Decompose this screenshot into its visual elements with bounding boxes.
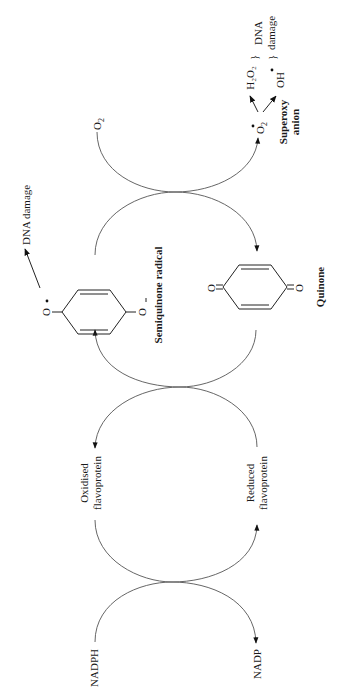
cycle-oxygen — [95, 132, 258, 255]
semiquinone-radical-label: Semiquinone radical — [152, 247, 164, 344]
dna-damage-label-right-line1: DNA — [252, 21, 264, 45]
arrow-oxidised-to-reduced — [95, 520, 257, 582]
o2-label: O2 — [91, 118, 106, 130]
arrow-to-dna-damage — [25, 249, 40, 288]
brace-2: } — [266, 55, 278, 60]
radical-dot-left — [46, 300, 49, 303]
arrow-reduced-to-oxidised — [95, 387, 257, 448]
superoxy-label-line2: anion — [289, 109, 301, 135]
arrow-nadph-to-nadp — [95, 582, 256, 643]
dna-damage-label-left: DNA damage — [20, 185, 32, 245]
brace-1: } — [248, 55, 260, 60]
superoxide-radical-dot — [252, 125, 255, 128]
quinone-o-right: O — [293, 284, 305, 292]
oh-label: OH — [274, 72, 286, 88]
arrow-to-oh — [263, 96, 276, 112]
oxidised-label-line2: flavoprotein — [91, 456, 103, 510]
arrow-to-h2o2 — [250, 96, 258, 112]
semiquinone-o-left: O — [40, 308, 52, 316]
reduced-label-line2: flavoprotein — [257, 456, 269, 510]
redox-cycling-diagram: O O DNA damage O O Semiquinone radical Q… — [0, 0, 338, 700]
arrow-o2-to-superoxide — [97, 132, 258, 192]
superoxide-symbol: O2 — [254, 122, 269, 134]
semiquinone-structure: O O DNA damage — [20, 185, 148, 334]
quinone-o-left: O — [205, 284, 217, 292]
svg-text:O2: O2 — [254, 122, 269, 134]
cycle-flavoprotein — [95, 330, 257, 448]
reduced-label-line1: Reduced — [244, 463, 256, 502]
nadph-label: NADPH — [88, 649, 100, 687]
cycle-nadph — [95, 520, 257, 643]
oxidised-label-line1: Oxidised — [78, 463, 90, 503]
h2o2-label: H₂O₂ — [244, 66, 256, 90]
hydroxyl-radical-dot — [271, 69, 274, 72]
arrow-semiquinone-to-quinone — [95, 192, 257, 255]
quinone-label: Quinone — [314, 267, 326, 307]
nadp-label: NADP — [251, 649, 263, 679]
semiquinone-o-right: O — [136, 308, 148, 316]
quinone-structure: O O — [205, 265, 305, 309]
svg-text:O2: O2 — [91, 118, 106, 130]
superoxy-label-line1: Superoxy — [277, 99, 289, 144]
arrow-quinone-to-semiquinone — [95, 330, 256, 387]
dna-damage-label-right-line2: damage — [265, 16, 277, 50]
